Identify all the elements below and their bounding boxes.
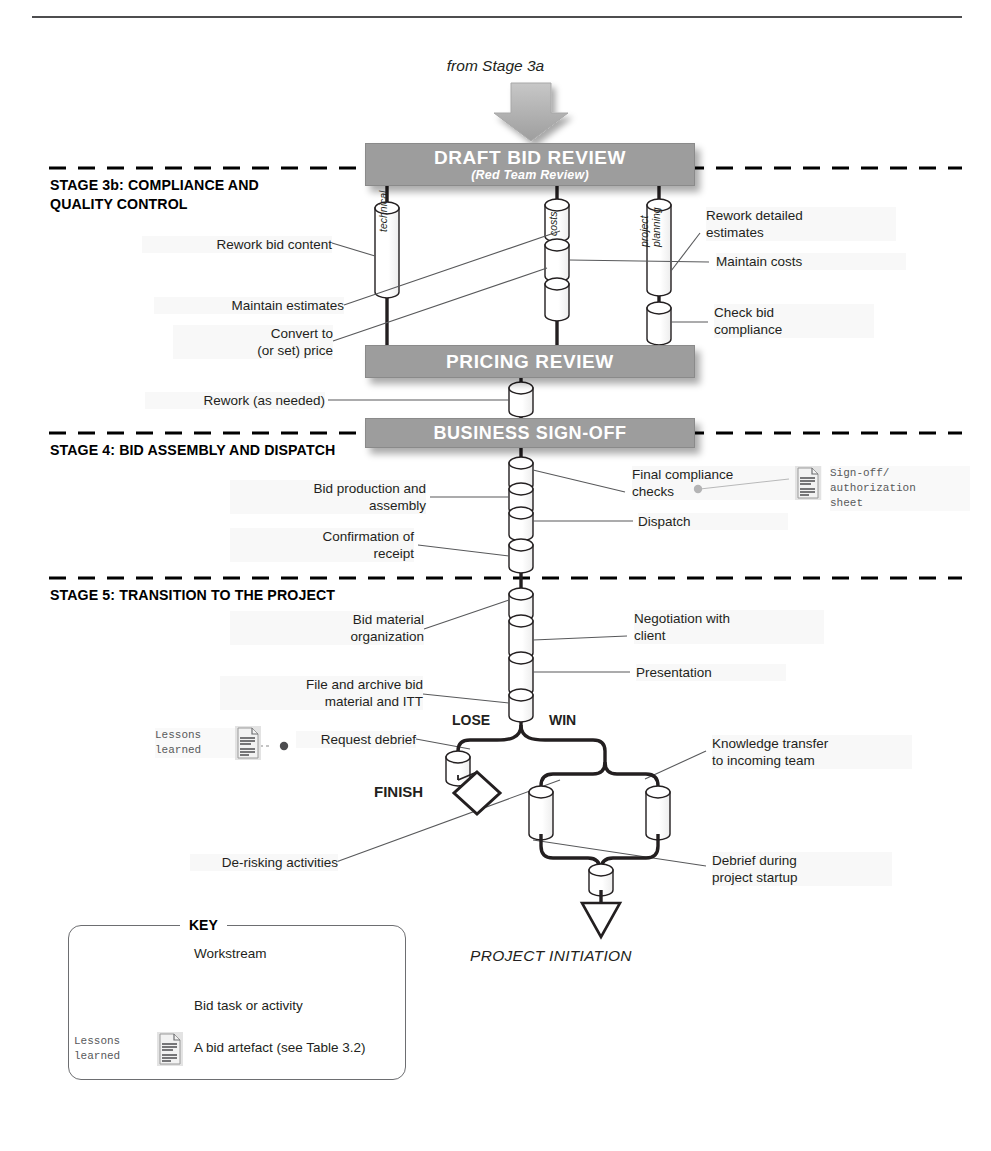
label-check-bid-compliance: Check bid compliance [714, 304, 874, 338]
label-bid-production-and-assembly: Bid production and assembly [230, 480, 426, 514]
entry-arrow-icon [494, 83, 568, 141]
entry-note: from Stage 3a [0, 57, 991, 75]
key-row-workstream: Workstream [194, 946, 267, 961]
bar-pricing-review-title: PRICING REVIEW [366, 351, 694, 373]
workstream-label-project-planning: project planning [639, 207, 662, 247]
label-presentation: Presentation [636, 664, 786, 681]
bar-draft-bid-review[interactable]: DRAFT BID REVIEW (Red Team Review) [365, 143, 695, 186]
bar-pricing-review[interactable]: PRICING REVIEW [365, 345, 695, 378]
cylinder-file-and-archive [509, 689, 533, 722]
key-row-bid-task: Bid task or activity [194, 998, 303, 1013]
stage-title-4: STAGE 4: BID ASSEMBLY AND DISPATCH [50, 441, 335, 460]
workstream-spines-3b [387, 183, 659, 352]
stage-title-3b: STAGE 3b: COMPLIANCE AND QUALITY CONTROL [50, 176, 259, 214]
key-title: KEY [180, 917, 227, 933]
label-maintain-estimates: Maintain estimates [154, 297, 344, 314]
label-convert-to-price: Convert to (or set) price [173, 325, 333, 359]
cylinder-dispatch [509, 507, 533, 541]
cylinder-check-bid-compliance [647, 302, 671, 345]
key-artefact-icon [157, 1032, 183, 1070]
bar-draft-bid-review-subtitle: (Red Team Review) [366, 168, 694, 182]
bar-business-signoff-title: BUSINESS SIGN-OFF [366, 423, 694, 444]
cylinder-maintain-costs [545, 239, 569, 282]
project-initiation-note: PROJECT INITIATION [470, 947, 632, 965]
cylinder-convert-to-price [545, 278, 569, 321]
label-debrief-during-startup: Debrief during project startup [712, 852, 892, 886]
label-file-and-archive: File and archive bid material and ITT [220, 676, 423, 710]
label-final-compliance-checks: Final compliance checks [632, 466, 822, 500]
branch-label-lose: LOSE [452, 712, 490, 728]
branch-label-win: WIN [549, 712, 576, 728]
key-artefact-caption: Lessons learned [74, 1034, 154, 1064]
label-negotiation-with-client: Negotiation with client [634, 610, 824, 644]
project-initiation-arrow-icon [582, 903, 620, 937]
bar-business-signoff[interactable]: BUSINESS SIGN-OFF [365, 418, 695, 448]
label-bid-material-organization: Bid material organization [230, 611, 424, 645]
workstream-label-technical: technical [378, 191, 390, 232]
cylinder-de-risking-activities [529, 786, 553, 840]
cylinder-confirmation-of-receipt [509, 539, 533, 573]
bar-draft-bid-review-title: DRAFT BID REVIEW [366, 147, 694, 169]
label-request-debrief: Request debrief [296, 731, 416, 748]
label-de-risking-activities: De-risking activities [190, 854, 338, 871]
label-rework-detailed-estimates: Rework detailed estimates [706, 207, 896, 241]
label-dispatch: Dispatch [638, 513, 788, 530]
label-confirmation-of-receipt: Confirmation of receipt [230, 528, 414, 562]
workstream-label-costs: costs [548, 211, 560, 236]
label-rework-bid-content: Rework bid content [142, 236, 332, 253]
branch-label-finish: FINISH [374, 783, 423, 800]
key-row-bid-artefact: A bid artefact (see Table 3.2) [194, 1040, 366, 1055]
artefact-lessons-learned-label: Lessons learned [155, 728, 235, 758]
cylinder-knowledge-transfer [646, 786, 670, 840]
label-knowledge-transfer: Knowledge transfer to incoming team [712, 735, 912, 769]
label-rework-as-needed: Rework (as needed) [145, 392, 325, 409]
artefact-lessons-learned-icon [235, 726, 261, 764]
stage-title-5: STAGE 5: TRANSITION TO THE PROJECT [50, 586, 335, 605]
diagram-canvas: DRAFT BID REVIEW (Red Team Review) PRICI… [0, 0, 991, 1151]
artefact-signoff-sheet-icon [795, 466, 821, 504]
artefact-signoff-sheet-label: Sign-off/ authorization sheet [830, 466, 970, 511]
label-maintain-costs: Maintain costs [716, 253, 906, 270]
cylinder-rework-as-needed [509, 382, 533, 417]
